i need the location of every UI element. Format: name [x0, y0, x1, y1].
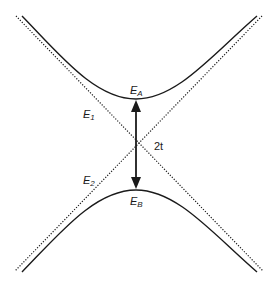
label-eb-sub: B — [137, 200, 142, 209]
label-e1-sub: 1 — [90, 113, 94, 122]
label-eb: EB — [130, 196, 143, 209]
e2-diabatic-line — [15, 16, 262, 271]
e1-diabatic-line — [16, 16, 263, 271]
arrow-head-up-icon — [131, 100, 141, 112]
label-e1: E1 — [83, 109, 95, 122]
label-e2: E2 — [83, 175, 95, 188]
avoided-crossing-diagram: EA EB E1 E2 2t — [0, 0, 278, 286]
label-e2-sub: 2 — [90, 179, 94, 188]
arrow-head-down-icon — [131, 177, 141, 189]
label-ea-sub: A — [137, 89, 142, 98]
diagram-svg — [0, 0, 278, 286]
label-gap-2t: 2t — [154, 141, 163, 152]
label-ea: EA — [130, 85, 143, 98]
